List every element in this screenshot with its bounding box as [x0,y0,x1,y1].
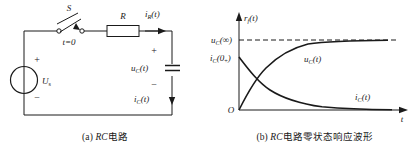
x-axis-label: t [401,114,404,124]
panel-response-waveforms: rf(t) t O uC(∞) iC(0+) uC(t) [210,0,420,147]
capacitor-minus-sign: − [151,79,157,90]
capacitor-voltage-label: uC(t) [131,63,148,74]
source-minus-sign: − [34,92,40,103]
rc-circuit-diagram: S t=0 R iR(t) + − Us + − [0,0,210,125]
resistor-symbol [107,26,139,37]
caption-panel-b: (b) RC电路零状态响应波形 [210,129,420,143]
switch-terminal-left [57,29,61,33]
capacitor-plus-sign: + [151,45,157,56]
switch-arrow-icon [73,23,80,30]
source-plus-sign: + [34,54,40,65]
caption-a-italic: RC [95,132,107,142]
caption-a-index: (a) [82,132,93,142]
caption-b-index: (b) [256,132,267,142]
y-axis-label: rf(t) [244,13,258,24]
curve-uc-label: uC(t) [304,54,321,65]
caption-b-text: 电路零状态响应波形 [283,132,374,142]
resistor-label: R [119,11,126,21]
curve-ic-label: iC(t) [355,92,370,103]
y-axis-arrow-icon [236,12,242,21]
uc-infinity-label: uC(∞) [211,35,232,46]
caption-panel-a: (a) RC电路 [0,129,210,143]
resistor-current-label: iR(t) [145,9,160,20]
panel-rc-circuit: S t=0 R iR(t) + − Us + − [0,0,210,147]
response-waveform-chart: rf(t) t O uC(∞) iC(0+) uC(t) [210,0,420,125]
source-label: Us [42,76,52,87]
x-axis-arrow-icon [399,107,408,113]
caption-b-italic: RC [270,132,282,142]
switch-label: S [67,3,72,13]
caption-a-text: 电路 [108,132,128,142]
ic-zero-plus-label: iC(0+) [210,53,231,64]
switch-terminal-right [80,29,84,33]
switch-time-label: t=0 [62,37,76,47]
current-arrow-head-ir [158,28,166,34]
figure-root: S t=0 R iR(t) + − Us + − [0,0,420,147]
capacitor-current-label: iC(t) [134,94,149,105]
current-arrow-head-ic [169,97,175,105]
origin-label: O [228,105,235,115]
